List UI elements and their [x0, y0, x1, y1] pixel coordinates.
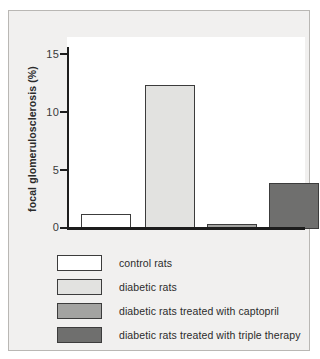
legend-label-captopril: diabetic rats treated with captopril [119, 305, 279, 317]
legend-label-diabetic-rats: diabetic rats [119, 281, 177, 293]
figure-panel: focal glomerulosclerosis (%) 15 10 5 0 c… [8, 10, 310, 351]
y-tick-mark-0 [60, 227, 67, 229]
bar-triple-therapy [269, 183, 319, 229]
y-axis-label: focal glomerulosclerosis (%) [26, 54, 38, 224]
legend-label-triple-therapy: diabetic rats treated with triple therap… [119, 329, 301, 341]
y-tick-label-5: 5 [17, 164, 59, 176]
y-tick-mark-5 [60, 169, 67, 171]
y-axis-line [67, 47, 69, 229]
legend-item-diabetic-rats: diabetic rats [57, 275, 307, 298]
y-tick-label-15: 15 [17, 48, 59, 60]
x-axis-line [67, 227, 305, 230]
y-tick-label-10: 10 [17, 106, 59, 118]
y-tick-mark-15 [60, 53, 67, 55]
y-tick-mark-10 [60, 111, 67, 113]
legend-item-control-rats: control rats [57, 251, 307, 274]
legend-swatch-diabetic-rats [57, 279, 102, 295]
legend-swatch-triple-therapy [57, 327, 102, 343]
legend: control rats diabetic rats diabetic rats… [57, 251, 307, 347]
legend-swatch-captopril [57, 303, 102, 319]
bar-diabetic-rats [145, 85, 195, 229]
y-tick-label-0: 0 [17, 221, 59, 233]
legend-swatch-control-rats [57, 255, 102, 271]
legend-label-control-rats: control rats [119, 257, 172, 269]
legend-item-triple-therapy: diabetic rats treated with triple therap… [57, 323, 307, 346]
plot-area [67, 37, 305, 229]
legend-item-captopril: diabetic rats treated with captopril [57, 299, 307, 322]
